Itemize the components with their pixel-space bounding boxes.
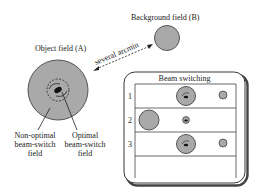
non-optimal-label: Non-optimal beam-switch field xyxy=(10,131,60,158)
non-optimal-line2: beam-switch xyxy=(10,140,60,149)
non-optimal-line3: field xyxy=(10,149,60,158)
optimal-line1: Optimal xyxy=(60,131,110,140)
row-index-2: 2 xyxy=(128,116,132,125)
background-field-disk xyxy=(155,26,180,51)
row-index-3: 3 xyxy=(128,140,132,149)
non-optimal-line1: Non-optimal xyxy=(10,131,60,140)
row2-source xyxy=(184,120,188,122)
optimal-line2: beam-switch xyxy=(60,140,110,149)
panel-title: Beam switching xyxy=(124,74,245,83)
row1-source xyxy=(184,96,188,99)
optimal-label: Optimal beam-switch field xyxy=(60,131,110,158)
row1-background-disk xyxy=(219,91,227,99)
row3-source xyxy=(184,144,188,147)
object-field-label: Object field (A) xyxy=(35,44,86,53)
optimal-line3: field xyxy=(60,149,110,158)
background-field-label: Background field (B) xyxy=(131,13,199,22)
row-index-1: 1 xyxy=(128,92,132,101)
arrow-head-right xyxy=(147,44,153,49)
row3-background-disk xyxy=(219,139,227,147)
row2-background-disk xyxy=(139,110,159,130)
